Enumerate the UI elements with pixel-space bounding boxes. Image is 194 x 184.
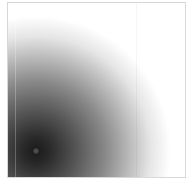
image-frame (7, 2, 186, 178)
faint-vertical-line-left (15, 3, 16, 177)
gradient-center-dot (33, 148, 39, 154)
faint-vertical-line-right (136, 3, 137, 177)
